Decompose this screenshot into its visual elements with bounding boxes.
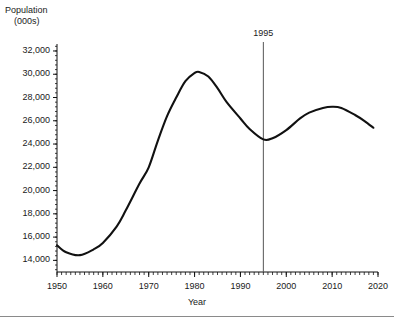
- y-axis-major-ticks: [53, 51, 57, 260]
- x-tick-label: 1960: [83, 281, 123, 291]
- population-line-chart: Population (000s) Year 1995 14,00016,000…: [0, 0, 394, 320]
- bottom-divider: [0, 316, 394, 317]
- y-tick-label: 30,000: [0, 68, 50, 78]
- x-tick-label: 1970: [129, 281, 169, 291]
- x-tick-label: 2020: [358, 281, 394, 291]
- y-tick-label: 24,000: [0, 138, 50, 148]
- x-tick-label: 1950: [37, 281, 77, 291]
- y-tick-label: 20,000: [0, 185, 50, 195]
- plot-area: [0, 0, 394, 320]
- y-tick-label: 14,000: [0, 254, 50, 264]
- x-tick-label: 2000: [266, 281, 306, 291]
- x-tick-label: 1980: [175, 281, 215, 291]
- y-tick-label: 28,000: [0, 92, 50, 102]
- y-tick-label: 26,000: [0, 115, 50, 125]
- population-series-line: [57, 72, 373, 256]
- y-tick-label: 22,000: [0, 161, 50, 171]
- x-tick-label: 2010: [312, 281, 352, 291]
- y-tick-label: 16,000: [0, 231, 50, 241]
- y-tick-label: 18,000: [0, 208, 50, 218]
- y-tick-label: 32,000: [0, 45, 50, 55]
- x-tick-label: 1990: [220, 281, 260, 291]
